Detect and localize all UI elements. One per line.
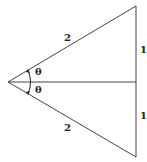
upper-hypotenuse-label: 2 (64, 33, 71, 43)
lower-angle-label: θ (35, 85, 42, 95)
triangle-diagram: 2 2 1 1 θ θ (0, 0, 147, 162)
upper-leg-label: 1 (140, 45, 147, 55)
lower-leg-label: 1 (140, 111, 147, 121)
triangle-figure (0, 0, 147, 162)
upper-angle-label: θ (35, 67, 42, 77)
lower-hypotenuse-label: 2 (64, 123, 71, 133)
